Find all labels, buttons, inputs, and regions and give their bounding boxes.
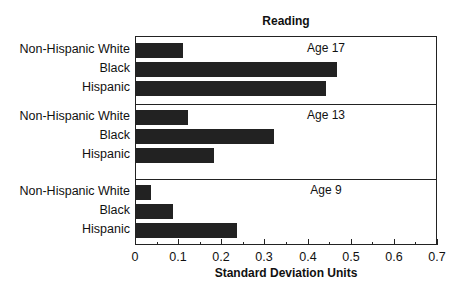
major-tick	[264, 239, 265, 245]
major-tick	[394, 239, 395, 245]
tick-label: 0.3	[249, 250, 279, 264]
minor-tick	[243, 242, 244, 245]
panel-divider	[136, 179, 436, 180]
panel-label: Age 13	[276, 108, 376, 122]
tick-label: 0.7	[422, 250, 452, 264]
tick-label: 0.4	[293, 250, 323, 264]
major-tick	[221, 239, 222, 245]
bar	[136, 204, 173, 219]
panel-divider	[136, 104, 436, 105]
panel-label: Age 9	[276, 183, 376, 197]
x-axis-label: Standard Deviation Units	[135, 266, 437, 280]
bar	[136, 223, 237, 238]
minor-tick	[200, 242, 201, 245]
category-label: Non-Hispanic White	[20, 109, 130, 123]
major-tick	[351, 239, 352, 245]
category-label: Non-Hispanic White	[20, 42, 130, 56]
major-tick	[308, 239, 309, 245]
major-tick	[178, 239, 179, 245]
tick-label: 0	[120, 250, 150, 264]
bar	[136, 148, 214, 163]
bar	[136, 43, 183, 58]
bar	[136, 62, 337, 77]
bar	[136, 81, 326, 96]
tick-label: 0.1	[163, 250, 193, 264]
chart-title: Reading	[135, 14, 437, 28]
minor-tick	[415, 242, 416, 245]
major-tick	[135, 239, 136, 245]
category-label: Black	[99, 203, 130, 217]
minor-tick	[157, 242, 158, 245]
minor-tick	[286, 242, 287, 245]
category-label: Hispanic	[82, 147, 130, 161]
category-label: Black	[99, 61, 130, 75]
category-label: Non-Hispanic White	[20, 184, 130, 198]
category-label: Hispanic	[82, 80, 130, 94]
major-tick	[437, 239, 438, 245]
bar	[136, 185, 151, 200]
tick-label: 0.2	[206, 250, 236, 264]
category-label: Black	[99, 128, 130, 142]
bar	[136, 129, 274, 144]
tick-label: 0.5	[336, 250, 366, 264]
tick-label: 0.6	[379, 250, 409, 264]
plot-area: Age 17Age 13Age 9	[135, 36, 437, 245]
bar	[136, 110, 188, 125]
minor-tick	[329, 242, 330, 245]
category-label: Hispanic	[82, 222, 130, 236]
panel-label: Age 17	[276, 41, 376, 55]
minor-tick	[372, 242, 373, 245]
